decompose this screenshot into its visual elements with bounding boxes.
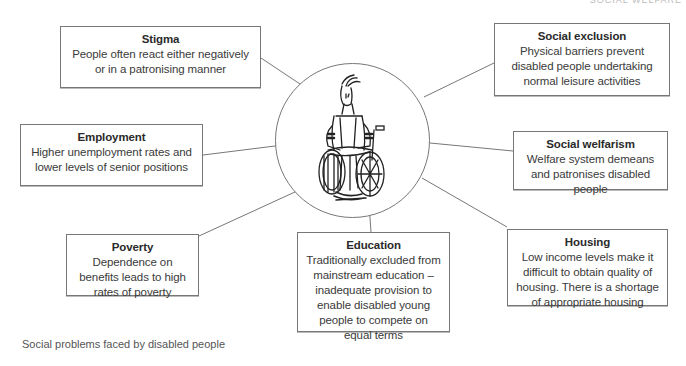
node-stigma: Stigma People often react either negativ… <box>60 26 261 88</box>
wheelchair-person-icon <box>276 64 429 217</box>
node-title: Education <box>304 238 443 253</box>
central-hub-circle <box>275 63 430 218</box>
node-education: Education Traditionally excluded from ma… <box>297 232 450 332</box>
node-title: Employment <box>27 130 196 145</box>
node-description: Physical barriers prevent disabled peopl… <box>501 44 663 89</box>
node-title: Social exclusion <box>501 29 663 44</box>
node-poverty: Poverty Dependence on benefits leads to … <box>66 234 199 296</box>
node-description: Welfare system demeans and patronises di… <box>520 152 661 197</box>
node-description: Higher unemployment rates and lower leve… <box>27 145 196 175</box>
node-housing: Housing Low income levels make it diffic… <box>507 229 668 306</box>
node-employment: Employment Higher unemployment rates and… <box>20 124 203 186</box>
node-title: Stigma <box>67 32 254 47</box>
node-title: Social welfarism <box>520 137 661 152</box>
figure-caption: Social problems faced by disabled people <box>22 338 225 350</box>
node-title: Housing <box>514 235 661 250</box>
node-description: Traditionally excluded from mainstream e… <box>304 253 443 343</box>
node-description: Low income levels make it difficult to o… <box>514 250 661 310</box>
connector-social-welfarism <box>430 143 513 151</box>
node-description: People often react either negatively or … <box>67 47 254 77</box>
connector-housing <box>422 178 507 227</box>
node-description: Dependence on benefits leads to high rat… <box>73 255 192 300</box>
node-title: Poverty <box>73 240 192 255</box>
node-social-exclusion: Social exclusion Physical barriers preve… <box>494 23 670 96</box>
connector-social-exclusion <box>424 63 494 97</box>
node-social-welfarism: Social welfarism Welfare system demeans … <box>513 131 668 190</box>
